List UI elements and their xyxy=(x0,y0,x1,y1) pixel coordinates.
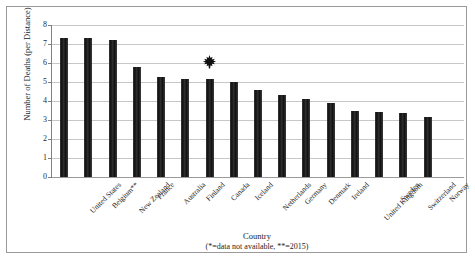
y-axis-tick-label: 2 xyxy=(33,135,47,143)
bar xyxy=(133,67,141,177)
y-axis-tick-label: 5 xyxy=(33,78,47,86)
bar xyxy=(181,79,189,177)
y-axis-tick xyxy=(48,139,52,140)
bar xyxy=(230,82,238,177)
y-axis-tick xyxy=(48,44,52,45)
y-axis-tick xyxy=(48,82,52,83)
x-axis-tick-label: Finland xyxy=(205,181,227,203)
bar xyxy=(157,77,165,177)
y-axis-tick-label: 6 xyxy=(33,59,47,67)
bar xyxy=(278,95,286,177)
bar xyxy=(254,90,262,177)
y-axis-tick xyxy=(48,158,52,159)
x-axis-tick-label: Iceland xyxy=(253,181,274,202)
bar xyxy=(327,103,335,177)
x-axis-tick-label: Canada xyxy=(229,181,251,203)
y-axis-tick-labels: 876543210 xyxy=(29,25,47,177)
x-axis-title: Country xyxy=(51,231,463,242)
chart-figure: Number of Deaths (per Distance) 87654321… xyxy=(0,0,475,261)
bar xyxy=(109,40,117,177)
bar xyxy=(399,113,407,177)
y-axis-tick xyxy=(48,63,52,64)
bar xyxy=(351,111,359,178)
plot-area xyxy=(51,25,463,177)
bar xyxy=(84,38,92,177)
bar xyxy=(206,79,214,177)
y-axis-tick-label: 4 xyxy=(33,97,47,105)
y-axis-tick-label: 8 xyxy=(33,21,47,29)
y-axis-tick-label: 0 xyxy=(33,173,47,181)
bar xyxy=(60,38,68,177)
bar xyxy=(424,117,432,177)
y-axis-tick-label: 7 xyxy=(33,40,47,48)
x-axis-tick-label: France xyxy=(156,181,176,201)
x-axis-tick-labels: United StatesBelgium**New ZealandFranceA… xyxy=(51,177,463,233)
bar xyxy=(375,112,383,177)
bar xyxy=(302,99,310,177)
chart-frame: Number of Deaths (per Distance) 87654321… xyxy=(6,6,467,253)
y-axis-tick-label: 3 xyxy=(33,116,47,124)
y-axis-tick-label: 1 xyxy=(33,154,47,162)
x-axis-tick-label: Ireland xyxy=(350,181,371,202)
x-axis-tick-label: Australia xyxy=(182,181,207,206)
y-axis-tick xyxy=(48,101,52,102)
maple-leaf-icon xyxy=(202,54,217,69)
y-axis-tick xyxy=(48,25,52,26)
y-axis-tick xyxy=(48,120,52,121)
gridline xyxy=(52,25,464,26)
x-axis-note: (*=data not available, **=2015) xyxy=(51,242,463,252)
